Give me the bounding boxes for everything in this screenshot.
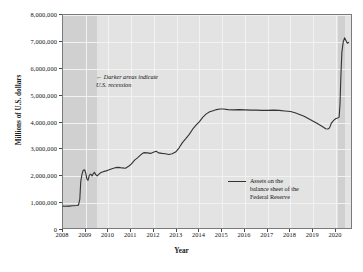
- x-tick-label: 2014: [192, 231, 205, 238]
- fed-balance-sheet-chart: ← Darker areas indicate U.S. recession A…: [0, 0, 363, 272]
- x-tick-label: 2009: [78, 231, 91, 238]
- x-tick-mark: [244, 229, 245, 232]
- y-tick-label: 8,000,000: [0, 11, 57, 18]
- x-tick-label: 2020: [329, 231, 342, 238]
- x-tick-mark: [267, 229, 268, 232]
- y-tick-mark: [59, 122, 62, 123]
- x-tick-label: 2019: [306, 231, 319, 238]
- x-tick-label: 2010: [101, 231, 114, 238]
- x-tick-mark: [107, 229, 108, 232]
- x-tick-mark: [198, 229, 199, 232]
- y-tick-mark: [59, 202, 62, 203]
- x-tick-mark: [335, 229, 336, 232]
- x-tick-mark: [176, 229, 177, 232]
- x-tick-mark: [289, 229, 290, 232]
- legend-label-assets: Assets on the balance sheet of the Feder…: [250, 177, 299, 201]
- y-tick-mark: [59, 41, 62, 42]
- plot-area: ← Darker areas indicate U.S. recession A…: [62, 14, 352, 229]
- y-tick-mark: [59, 175, 62, 176]
- y-tick-label: 7,000,000: [0, 37, 57, 44]
- x-tick-mark: [85, 229, 86, 232]
- x-tick-label: 2011: [124, 231, 137, 238]
- y-tick-mark: [59, 14, 62, 15]
- recession-annotation: ← Darker areas indicate U.S. recession: [96, 73, 158, 89]
- x-tick-mark: [130, 229, 131, 232]
- y-tick-label: 2,000,000: [0, 172, 57, 179]
- x-tick-mark: [62, 229, 63, 232]
- series-line: [63, 38, 349, 206]
- x-tick-label: 2016: [238, 231, 251, 238]
- y-axis-title: Millions of U.S. dollars: [15, 45, 23, 175]
- assets-line-series: [63, 15, 353, 230]
- y-tick-label: 0: [0, 226, 57, 233]
- y-tick-mark: [59, 68, 62, 69]
- x-tick-label: 2015: [215, 231, 228, 238]
- x-tick-mark: [221, 229, 222, 232]
- x-tick-mark: [153, 229, 154, 232]
- y-tick-label: 5,000,000: [0, 91, 57, 98]
- x-tick-label: 2018: [283, 231, 296, 238]
- x-tick-label: 2013: [169, 231, 182, 238]
- y-tick-label: 1,000,000: [0, 199, 57, 206]
- x-tick-label: 2008: [56, 231, 69, 238]
- x-tick-label: 2012: [147, 231, 160, 238]
- legend-line-swatch: [228, 181, 246, 182]
- x-axis-title: Year: [0, 247, 363, 255]
- y-tick-label: 4,000,000: [0, 118, 57, 125]
- y-tick-mark: [59, 95, 62, 96]
- y-tick-mark: [59, 148, 62, 149]
- x-tick-label: 2017: [260, 231, 273, 238]
- y-tick-label: 3,000,000: [0, 145, 57, 152]
- y-tick-label: 6,000,000: [0, 64, 57, 71]
- x-tick-mark: [312, 229, 313, 232]
